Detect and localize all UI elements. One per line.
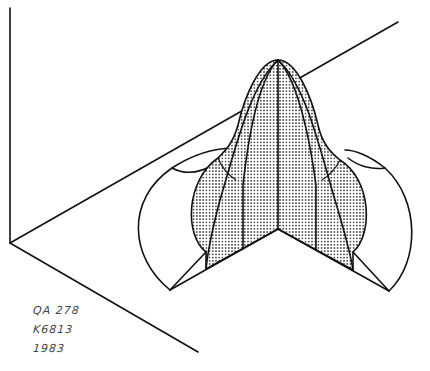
bell-body-shaded <box>191 60 366 270</box>
year-annotation: 1983 <box>33 342 66 355</box>
call-number-line-2: K6813 <box>33 323 74 336</box>
right-lobe-chord <box>353 252 389 291</box>
left-lobe-chord <box>170 252 206 290</box>
call-number-line-1: QA 278 <box>33 304 81 317</box>
